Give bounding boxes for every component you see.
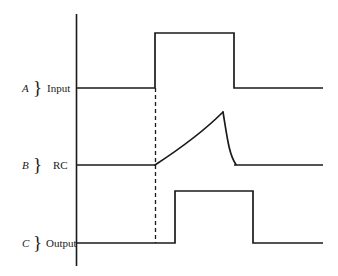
output-waveform	[76, 191, 323, 243]
channel-rc-brace: }	[33, 154, 42, 175]
channel-rc: B } RC	[22, 112, 323, 175]
channel-output-letter: C	[22, 237, 30, 249]
rc-charge-curve	[155, 112, 223, 165]
channel-input-letter: A	[21, 82, 29, 94]
channel-output-name: Output	[46, 237, 77, 249]
timing-diagram-canvas: A } Input B } RC C } Output	[0, 0, 338, 276]
channel-input-brace: }	[33, 77, 42, 98]
channel-output-brace: }	[33, 232, 42, 253]
channel-rc-name: RC	[53, 159, 68, 171]
channel-rc-letter: B	[22, 159, 29, 171]
channel-input-name: Input	[47, 82, 70, 94]
channel-input: A } Input	[21, 33, 323, 98]
rc-discharge-curve	[223, 112, 236, 164]
channel-output: C } Output	[22, 191, 323, 253]
timing-diagram: A } Input B } RC C } Output	[0, 0, 338, 276]
input-waveform	[76, 33, 323, 88]
